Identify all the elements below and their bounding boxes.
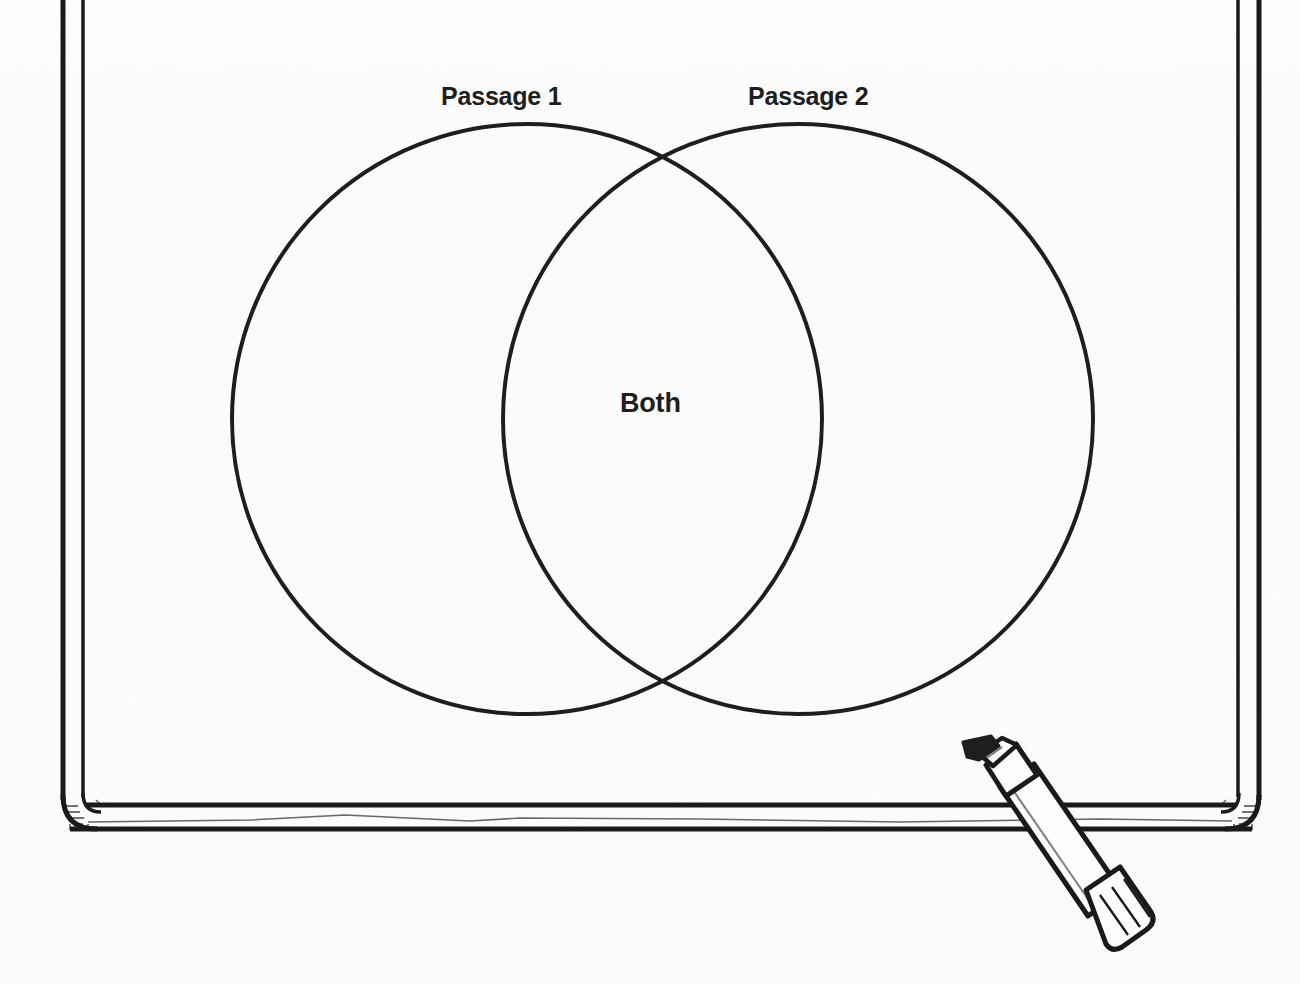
dry-erase-marker[interactable] [963, 736, 1153, 949]
frame-corner-bottom-left [63, 793, 101, 830]
worksheet-page: Passage 1 Passage 2 Both [0, 0, 1300, 984]
worksheet-illustration [0, 0, 1300, 984]
frame-corner-bottom-right [1221, 793, 1259, 830]
venn-label-passage-2: Passage 2 [748, 82, 869, 111]
venn-circle-passage-2[interactable] [503, 124, 1093, 714]
venn-diagram [232, 124, 1093, 714]
venn-circle-passage-1[interactable] [232, 124, 822, 714]
venn-label-passage-1: Passage 1 [441, 82, 562, 111]
venn-label-both: Both [620, 388, 681, 419]
